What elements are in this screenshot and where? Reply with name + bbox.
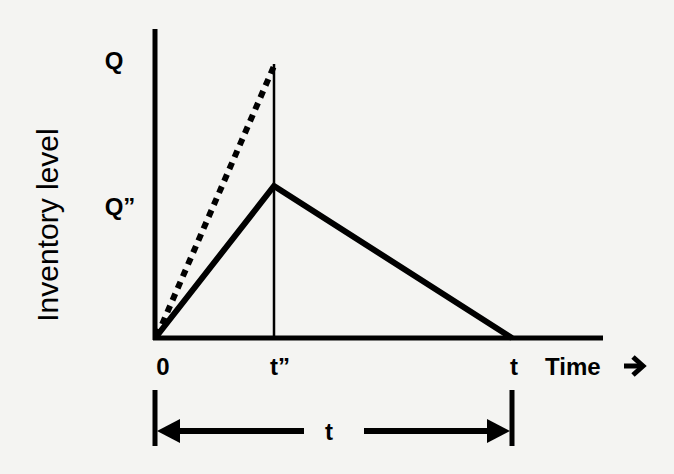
x-tick-t-double-prime: t” <box>270 353 290 380</box>
inventory-diagram: Inventory level Q Q” 0 t” t Time t <box>0 0 674 474</box>
arrow-right-icon <box>624 357 643 375</box>
span-bracket <box>155 390 512 446</box>
span-label: t <box>325 418 333 445</box>
inventory-level-line <box>156 186 512 338</box>
dotted-replenishment-line <box>157 66 274 336</box>
arrow-right-head-icon <box>487 419 510 443</box>
arrow-left-icon <box>157 419 180 443</box>
y-tick-q: Q <box>105 47 124 74</box>
x-axis-label: Time <box>545 353 601 380</box>
x-tick-origin: 0 <box>156 353 169 380</box>
y-tick-q-double-prime: Q” <box>105 193 136 220</box>
x-tick-t: t <box>510 353 518 380</box>
y-axis-label: Inventory level <box>31 128 64 321</box>
